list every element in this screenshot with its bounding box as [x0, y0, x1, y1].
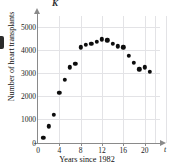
data-point [84, 43, 88, 47]
data-point [68, 65, 72, 69]
data-point [100, 37, 104, 41]
data-point [110, 42, 114, 46]
gridline-horizontal [38, 50, 160, 51]
data-point [142, 65, 146, 69]
x-axis-tick-label: 16 [120, 146, 128, 155]
x-axis-line [34, 143, 162, 144]
gridline-vertical [145, 16, 146, 143]
data-point [89, 42, 93, 46]
x-axis-tick-mark [145, 143, 146, 146]
data-point [73, 61, 77, 65]
data-point [105, 38, 109, 42]
gridline-horizontal [38, 96, 160, 97]
data-point [137, 67, 141, 71]
figure-corner-label: K [52, 0, 58, 8]
y-axis-tick-label: 3000 [21, 68, 36, 77]
x-axis-variable-label: t [164, 145, 166, 154]
x-axis-tick-mark [81, 143, 82, 146]
data-point [41, 136, 45, 140]
x-axis-tick-label: 0 [36, 146, 40, 155]
y-axis-title: Number of heart transplants [7, 0, 16, 119]
plot-area [38, 16, 160, 143]
data-point [132, 60, 136, 64]
gridline-horizontal [38, 73, 160, 74]
gridline-horizontal [38, 119, 160, 120]
x-axis-tick-label: 12 [98, 146, 106, 155]
x-axis-tick-mark [102, 143, 103, 146]
x-axis-tick-label: 20 [141, 146, 149, 155]
gridline-vertical [166, 16, 167, 143]
data-point [57, 90, 61, 94]
y-axis-tick-label: 2000 [21, 92, 36, 101]
data-point [52, 113, 56, 117]
y-axis-tick-label: 4000 [21, 45, 36, 54]
y-axis-tick-label: 1000 [21, 115, 36, 124]
y-axis-tick-labels: 010002000300040005000 [0, 0, 36, 168]
data-point [126, 53, 130, 57]
x-axis-tick-label: 8 [79, 146, 83, 155]
gridline-vertical [102, 16, 103, 143]
gridline-vertical [155, 16, 156, 143]
data-point [116, 44, 120, 48]
x-axis-tick-mark [59, 143, 60, 146]
y-axis-line [37, 14, 38, 144]
x-axis-tick-label: 4 [57, 146, 61, 155]
gridline-vertical [81, 16, 82, 143]
x-axis-title: Years since 1982 [0, 155, 174, 164]
x-axis-tick-mark [123, 143, 124, 146]
data-point [46, 124, 50, 128]
gridline-horizontal [38, 27, 160, 28]
data-point [62, 78, 66, 82]
chart-figure: K 010002000300040005000 048121620 t Numb… [0, 0, 174, 168]
gridline-vertical [59, 16, 60, 143]
data-point [94, 39, 98, 43]
gridline-vertical [123, 16, 124, 143]
y-axis-tick-label: 5000 [21, 22, 36, 31]
